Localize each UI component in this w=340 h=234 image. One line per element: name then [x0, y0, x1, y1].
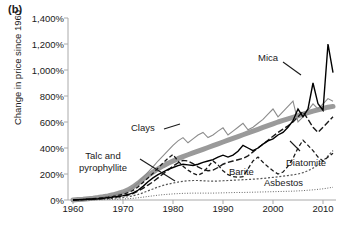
annotation-talc-line1: Talc and [60, 150, 146, 162]
annotation-mica: Mica [258, 52, 278, 63]
annotation-talc: Talc and pyrophyllite [60, 150, 146, 173]
figure-panel-b: (b) Change in price since 1960 1,400% 1,… [0, 0, 340, 234]
annotation-clays: Clays [131, 122, 155, 133]
leader-clays [164, 124, 180, 129]
leader-mica [283, 62, 301, 75]
annotation-diatomite: Diatomite [286, 157, 326, 168]
annotation-asbestos: Asbestos [264, 177, 303, 188]
annotation-talc-line2: pyrophyllite [60, 162, 146, 174]
chart-plot-area [0, 0, 340, 234]
annotation-barite: Barite [229, 166, 254, 177]
leader-diatomite [290, 141, 300, 151]
